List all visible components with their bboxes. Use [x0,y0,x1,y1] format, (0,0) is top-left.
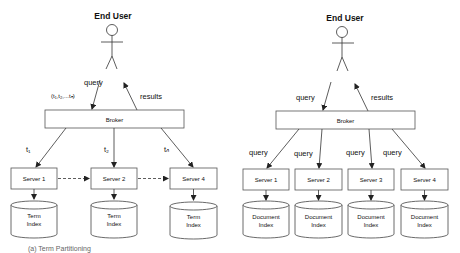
edge-label-t2: t₂ [104,145,109,154]
left-caption: (a) Term Partitioning [28,245,91,253]
index-label-line1: Term [187,214,200,220]
broker-to-server1-arrow [36,128,66,167]
document-partitioning-diagram: End User query results Broker query quer… [243,13,448,238]
query-label: query [296,93,315,102]
index-label-line2: Index [417,222,432,228]
term-index-database-icon [11,201,57,238]
broker-to-server2-arrow [319,129,322,168]
results-label: results [140,92,162,101]
query-arrow [323,82,331,110]
broker-label: Broker [106,117,124,123]
results-arrow [124,83,137,110]
query-terms-label: (t₁,t₂,...tₙ) [51,93,75,99]
results-arrow [355,84,368,111]
index-label-line1: Term [27,213,40,219]
index-label-line1: Document [411,214,439,220]
edge-label-query: query [294,149,313,158]
term-partitioning-diagram: End User query (t₁,t₂,...tₙ) results Bro… [11,11,217,253]
index-label-line1: Document [305,214,333,220]
server-label: Server 1 [255,177,278,183]
index-label-line1: Document [252,214,280,220]
edge-label-t1: t₁ [26,145,31,154]
server-label: Server 2 [103,176,126,182]
end-user-stick-figure-icon [332,27,354,72]
end-user-label: End User [94,11,132,21]
end-user-label: End User [326,13,364,23]
edge-label-query: query [346,148,365,157]
broker-label: Broker [337,118,355,124]
index-label-line2: Index [186,222,201,228]
server-label: Server 1 [23,176,46,182]
index-label-line2: Index [311,222,326,228]
results-label: results [371,93,393,102]
index-label-line2: Index [259,222,274,228]
partitioning-diagram: End User query (t₁,t₂,...tₙ) results Bro… [0,0,460,253]
term-index-database-icon [91,201,137,238]
end-user-stick-figure-icon [101,25,123,70]
term-index-database-icon [170,202,217,239]
index-label-line2: Index [27,221,42,227]
index-label-line2: Index [107,221,122,227]
edge-label-query: query [249,148,268,157]
server-label: Server 2 [307,177,330,183]
server-label: Server 3 [360,177,383,183]
edge-label-tn: tₙ [164,145,169,154]
index-label-line2: Index [364,222,379,228]
query-label: query [84,78,103,87]
index-label-line1: Document [357,214,385,220]
edge-label-query: query [383,148,402,157]
server-label: Server 4 [182,176,205,182]
index-label-line1: Term [107,213,120,219]
broker-to-server3-arrow [369,129,372,168]
server-label: Server 4 [413,177,436,183]
